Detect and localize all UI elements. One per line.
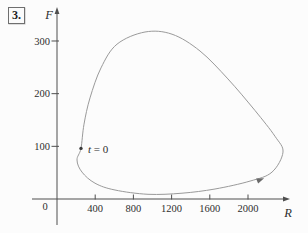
label-layer: F R 0 400800120016002000100200300t = 0 [34,8,292,220]
y-axis-label: F [44,8,53,22]
axes-layer [32,7,290,225]
phase-plot: F R 0 400800120016002000100200300t = 0 [0,0,308,233]
origin-label: 0 [42,201,47,212]
trajectory-curve [77,31,283,194]
y-axis-arrow-icon [55,7,60,14]
x-tick-label: 2000 [238,203,259,214]
problem-number-box: 3. [8,7,25,24]
y-tick-label: 300 [34,36,50,47]
t0-label: t = 0 [88,143,109,155]
y-tick-label: 100 [34,141,50,152]
problem-number: 3. [12,8,21,22]
x-axis-label: R [283,206,292,220]
x-tick-label: 1600 [199,203,220,214]
x-tick-label: 400 [87,203,103,214]
x-axis-arrow-icon [283,197,290,202]
x-tick-label: 1200 [161,203,182,214]
x-tick-label: 800 [126,203,142,214]
y-tick-label: 200 [34,88,50,99]
trajectory-layer [77,31,283,194]
t0-point [79,147,82,150]
figure-canvas: 3. F R 0 400800120016002000100200300t = … [0,0,308,233]
